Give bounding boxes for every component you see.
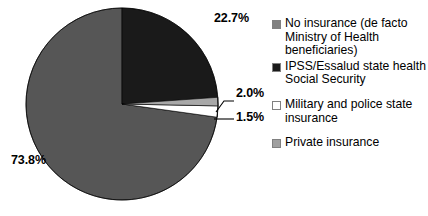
legend-label-military-police: Military and police state insurance (285, 98, 428, 125)
leader-line-military-police (216, 101, 234, 112)
pie-value-private-insurance: 1.5% (236, 110, 264, 124)
legend-swatch-military-police (272, 101, 281, 110)
legend-swatch-ipss-essalud (272, 63, 281, 72)
legend-label-private-insurance: Private insurance (285, 136, 379, 150)
pie-value-ipss-essalud: 22.7% (214, 11, 249, 25)
pie-value-no-insurance: 73.8% (11, 153, 46, 167)
legend-item-no-insurance[interactable]: No insurance (de facto Ministry of Healt… (272, 17, 428, 58)
legend-swatch-private-insurance (272, 139, 281, 148)
pie-plot-area: 22.7% 2.0% 1.5% 73.8% (0, 0, 252, 216)
legend-swatch-no-insurance (272, 20, 281, 29)
pie-svg (0, 0, 252, 216)
legend-label-ipss-essalud: IPSS/Essalud state health Social Securit… (285, 60, 428, 87)
legend-item-private-insurance[interactable]: Private insurance (272, 136, 428, 150)
legend: No insurance (de facto Ministry of Healt… (272, 17, 428, 152)
pie-value-military-police: 2.0% (236, 86, 264, 100)
legend-item-military-police[interactable]: Military and police state insurance (272, 98, 428, 125)
pie-chart-figure: 22.7% 2.0% 1.5% 73.8% No insurance (de f… (0, 0, 428, 216)
legend-item-ipss-essalud[interactable]: IPSS/Essalud state health Social Securit… (272, 60, 428, 87)
legend-label-no-insurance: No insurance (de facto Ministry of Healt… (285, 17, 428, 58)
